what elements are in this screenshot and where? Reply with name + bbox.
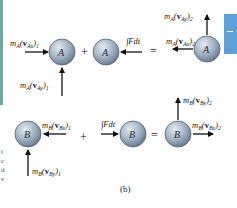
mass-subscript: A	[172, 41, 176, 47]
impulse-momentum-diagram: l c d s A A A	[0, 0, 237, 208]
state-index: 2	[218, 125, 221, 131]
label-impulse-a: ∫Fdt	[126, 36, 140, 46]
sphere-b-impulse: B	[120, 121, 146, 147]
mass-subscript: A	[16, 43, 20, 49]
velocity-subscript: By	[200, 100, 206, 106]
velocity-subscript: Ax	[27, 43, 33, 49]
mass-subscript: B	[38, 171, 42, 177]
sphere-letter: A	[202, 44, 210, 55]
state-index: 2	[192, 41, 195, 47]
velocity-subscript: Ax	[183, 41, 189, 47]
state-index: 2	[209, 100, 212, 106]
label-mvax2: mA(vAx)2	[166, 36, 195, 49]
label-mvbx2: mB(vBx)2	[192, 120, 221, 133]
label-mvby2: mB(vBy)2	[183, 95, 212, 108]
figure-caption: (b)	[120, 184, 131, 194]
mass-subscript: A	[26, 85, 30, 91]
equals-operator-b: =	[151, 129, 158, 141]
plus-operator-b: +	[80, 131, 87, 143]
sphere-a-impulse: A	[93, 39, 119, 65]
label-mvby1: mB(vBy)1	[32, 166, 61, 179]
plus-operator-a: +	[81, 46, 88, 58]
state-index: 1	[68, 125, 71, 131]
velocity-subscript: Bx	[209, 125, 215, 131]
mass-subscript: B	[198, 125, 202, 131]
sphere-a-initial: A	[49, 39, 75, 65]
sphere-letter: B	[24, 129, 30, 140]
state-index: 1	[36, 43, 39, 49]
label-impulse-b: ∫Fdt	[101, 119, 115, 129]
sphere-letter: A	[101, 47, 109, 58]
state-index: 1	[58, 171, 61, 177]
label-mvay1: mA(vAy)1	[20, 80, 49, 93]
velocity-subscript: Ay	[181, 16, 187, 22]
velocity-subscript: Ay	[37, 85, 43, 91]
equals-operator-a: =	[150, 45, 157, 57]
mass-subscript: A	[170, 16, 174, 22]
sphere-letter: A	[57, 47, 65, 58]
mass-subscript: B	[48, 125, 52, 131]
state-index: 1	[46, 85, 49, 91]
mass-subscript: B	[189, 100, 193, 106]
sphere-b-initial: B	[15, 121, 41, 147]
velocity-subscript: By	[49, 171, 55, 177]
label-mvax1: mA(vAx)1	[10, 38, 39, 51]
velocity-subscript: Bx	[59, 125, 65, 131]
state-index: 2	[190, 16, 193, 22]
label-mvay2: mA(vAy)2	[164, 11, 193, 24]
sphere-b-final: B	[165, 121, 191, 147]
sphere-letter: B	[129, 129, 135, 140]
sphere-a-final: A	[194, 36, 220, 62]
sphere-letter: B	[174, 129, 180, 140]
label-mvbx1: mB(vBx)1	[42, 120, 71, 133]
